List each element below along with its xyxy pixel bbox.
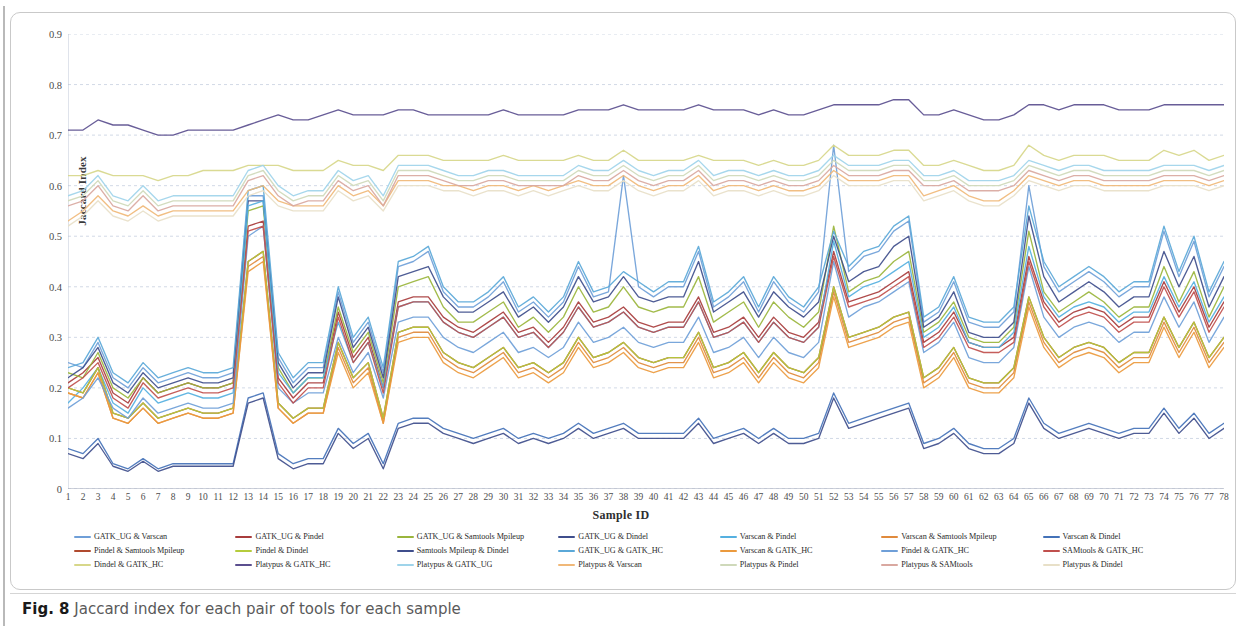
legend-label: Varscan & GATK_HC <box>740 546 813 556</box>
figure-number: Fig. 8 <box>22 600 69 618</box>
series-line <box>68 145 1224 180</box>
legend-label: Dindel & GATK_HC <box>94 560 163 570</box>
y-tick-label: 0 <box>22 484 62 495</box>
line-chart <box>68 34 1224 489</box>
legend-color-swatch <box>235 550 252 552</box>
legend-item[interactable]: Platypus & GATK_UG <box>397 558 558 572</box>
x-axis-ticks: 1234567891011121314151617181920212223242… <box>68 492 1224 508</box>
y-tick-label: 0.1 <box>22 433 62 444</box>
legend-item[interactable]: Platypus & GATK_HC <box>235 558 396 572</box>
legend-label: Platypus & GATK_HC <box>255 560 330 570</box>
y-tick-label: 0.9 <box>22 29 62 40</box>
legend-item[interactable]: Varscan & Pindel <box>720 530 881 544</box>
legend-label: Varscan & Dindel <box>1063 532 1121 542</box>
legend-item[interactable]: Pindel & GATK_HC <box>881 544 1042 558</box>
y-tick-label: 0.7 <box>22 130 62 141</box>
y-tick-label: 0.2 <box>22 382 62 393</box>
legend-item[interactable]: GATK_UG & Dindel <box>558 530 719 544</box>
series-lines <box>68 100 1224 472</box>
legend-color-swatch <box>235 564 252 566</box>
legend-label: Platypus & GATK_UG <box>417 560 493 570</box>
legend-item[interactable]: GATK_UG & GATK_HC <box>558 544 719 558</box>
legend-item[interactable]: Varscan & Dindel <box>1043 530 1204 544</box>
legend-color-swatch <box>1043 564 1060 566</box>
legend-item[interactable]: Platypus & Dindel <box>1043 558 1204 572</box>
legend-item[interactable]: Pindel & Dindel <box>235 544 396 558</box>
legend-label: Pindel & Dindel <box>255 546 308 556</box>
legend-color-swatch <box>558 564 575 566</box>
legend-color-swatch <box>881 550 898 552</box>
y-tick-label: 0.4 <box>22 281 62 292</box>
legend-label: Platypus & Varscan <box>578 560 642 570</box>
legend-item[interactable]: GATK_UG & Samtools Mpileup <box>397 530 558 544</box>
legend-label: Pindel & Samtools Mpileup <box>94 546 184 556</box>
legend-item[interactable]: Pindel & Samtools Mpileup <box>74 544 235 558</box>
legend-color-swatch <box>720 550 737 552</box>
figure-card: Jaccard Index 0.90.80.70.60.50.40.30.20.… <box>0 0 1242 632</box>
legend-color-swatch <box>720 536 737 538</box>
y-axis-ticks: 0.90.80.70.60.50.40.30.20.10 <box>0 34 62 489</box>
legend-color-swatch <box>397 536 414 538</box>
axis-lines <box>68 34 1224 489</box>
legend-label: Varscan & Samtools Mpileup <box>901 532 996 542</box>
figure-caption-text: Jaccard index for each pair of tools for… <box>74 600 461 618</box>
y-tick-label: 0.5 <box>22 231 62 242</box>
legend-label: Pindel & GATK_HC <box>901 546 969 556</box>
y-tick-label: 0.3 <box>22 332 62 343</box>
x-tick-label: 78 <box>1213 492 1235 502</box>
legend-color-swatch <box>1043 550 1060 552</box>
legend-label: SAMtools & GATK_HC <box>1063 546 1144 556</box>
legend-item[interactable]: Samtools Mpileup & Dindel <box>397 544 558 558</box>
legend-label: Platypus & Dindel <box>1063 560 1123 570</box>
legend-color-swatch <box>74 564 91 566</box>
legend-label: GATK_UG & Samtools Mpileup <box>417 532 524 542</box>
figure-caption: Fig. 8 Jaccard index for each pair of to… <box>22 600 461 618</box>
plot-area <box>68 34 1224 489</box>
legend-label: GATK_UG & Pindel <box>255 532 323 542</box>
legend-item[interactable]: GATK_UG & Pindel <box>235 530 396 544</box>
legend-label: Varscan & Pindel <box>740 532 797 542</box>
legend-item[interactable]: Varscan & Samtools Mpileup <box>881 530 1042 544</box>
legend-item[interactable]: SAMtools & GATK_HC <box>1043 544 1204 558</box>
legend-item[interactable]: Dindel & GATK_HC <box>74 558 235 572</box>
legend-color-swatch <box>558 550 575 552</box>
legend-label: Platypus & Pindel <box>740 560 799 570</box>
legend-label: Platypus & SAMtools <box>901 560 972 570</box>
y-tick-label: 0.8 <box>22 79 62 90</box>
legend-label: Samtools Mpileup & Dindel <box>417 546 509 556</box>
legend-item[interactable]: GATK_UG & Varscan <box>74 530 235 544</box>
y-tick-label: 0.6 <box>22 180 62 191</box>
legend-item[interactable]: Platypus & SAMtools <box>881 558 1042 572</box>
chart-legend: GATK_UG & VarscanGATK_UG & PindelGATK_UG… <box>74 530 1204 572</box>
legend-color-swatch <box>74 536 91 538</box>
gridlines <box>68 34 1224 489</box>
legend-color-swatch <box>558 536 575 538</box>
legend-color-swatch <box>397 564 414 566</box>
legend-color-swatch <box>881 564 898 566</box>
legend-label: GATK_UG & GATK_HC <box>578 546 663 556</box>
legend-label: GATK_UG & Varscan <box>94 532 167 542</box>
series-line <box>68 398 1224 471</box>
legend-color-swatch <box>881 536 898 538</box>
legend-color-swatch <box>397 550 414 552</box>
legend-item[interactable]: Platypus & Pindel <box>720 558 881 572</box>
caption-divider <box>10 593 1236 594</box>
legend-color-swatch <box>74 550 91 552</box>
legend-color-swatch <box>235 536 252 538</box>
legend-item[interactable]: Varscan & GATK_HC <box>720 544 881 558</box>
legend-item[interactable]: Platypus & Varscan <box>558 558 719 572</box>
series-line <box>68 100 1224 135</box>
x-axis-title: Sample ID <box>0 508 1242 523</box>
legend-color-swatch <box>1043 536 1060 538</box>
legend-label: GATK_UG & Dindel <box>578 532 648 542</box>
legend-color-swatch <box>720 564 737 566</box>
